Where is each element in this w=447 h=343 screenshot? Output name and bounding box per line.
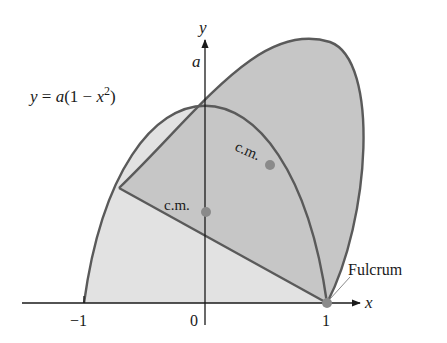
fulcrum-label: Fulcrum: [348, 261, 403, 278]
a-label: a: [192, 52, 201, 71]
equation-label: y = a(1 − x2): [28, 84, 116, 106]
x-axis-label: x: [364, 293, 373, 312]
cm-label-upright: c.m.: [164, 197, 190, 213]
y-axis-label: y: [197, 18, 207, 37]
tick-label-zero: 0: [190, 312, 198, 329]
cm-point-upright: [201, 207, 211, 217]
diagram-canvas: y x a y = a(1 − x2) −1 0 1 c.m. c.m. Ful…: [0, 0, 447, 343]
tick-label-one: 1: [322, 312, 330, 329]
tick-label-neg-one: −1: [70, 312, 87, 329]
cm-point-rotated: [265, 160, 275, 170]
fulcrum-point: [322, 298, 332, 308]
